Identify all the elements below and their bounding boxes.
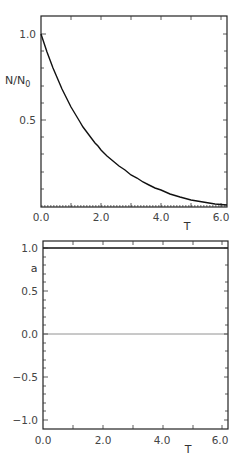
bottom-plot-frame: [43, 241, 228, 429]
top-xtick-0: 0.0: [33, 211, 50, 223]
decay-curve: [41, 34, 227, 205]
bottom-xtick-4: 4.0: [154, 434, 171, 446]
bottom-ytick-neg-1-0: −1.0: [13, 414, 39, 426]
bottom-ytick-0-0: 0.0: [21, 328, 38, 340]
bottom-ytick-0-5: 0.5: [21, 285, 38, 297]
bottom-xtick-0: 0.0: [35, 434, 52, 446]
top-plot-frame: [41, 16, 227, 207]
top-xtick-6: 6.0: [213, 211, 230, 223]
top-x-ticks: [71, 16, 221, 207]
bottom-ytick-neg-0-5: −0.5: [13, 371, 39, 383]
top-ylabel: N/N0: [5, 74, 30, 89]
bottom-xtick-2: 2.0: [95, 434, 112, 446]
figure: 1.0 0.5 N/N0 0.0 2.0 4.0 6.0 T: [0, 0, 240, 467]
bottom-plot: 1.0 a 0.5 0.0 −0.5 −1.0 0.0 2.0 4.0 6.0 …: [13, 241, 229, 456]
top-xlabel: T: [183, 220, 191, 233]
bottom-xlabel: T: [184, 443, 192, 456]
bottom-x-ticks: [73, 241, 222, 429]
bottom-xtick-6: 6.0: [212, 434, 229, 446]
top-xtick-2: 2.0: [93, 211, 110, 223]
top-ytick-1-0: 1.0: [19, 28, 36, 40]
bottom-ytick-1-0: 1.0: [21, 242, 38, 254]
top-y-ticks: [41, 34, 227, 189]
top-plot: 1.0 0.5 N/N0 0.0 2.0 4.0 6.0 T: [5, 16, 229, 233]
top-ytick-0-5: 0.5: [19, 114, 36, 126]
top-xtick-4: 4.0: [153, 211, 170, 223]
bottom-ylabel: a: [31, 262, 38, 275]
